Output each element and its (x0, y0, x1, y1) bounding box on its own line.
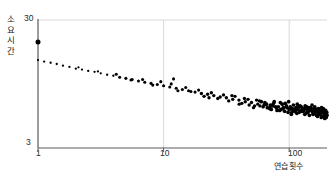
scatter-plot-figure: 소요시간 30 3 1 10 100 연습횟수 (0, 0, 331, 187)
plot-canvas (0, 0, 331, 187)
